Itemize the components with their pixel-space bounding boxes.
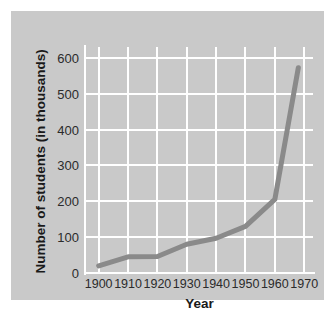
y-tick-label-300: 300 (57, 159, 79, 172)
x-tick-label-1940: 1940 (202, 278, 230, 291)
x-tick-label-1910: 1910 (114, 278, 142, 291)
x-tick-label-1960: 1960 (261, 278, 289, 291)
plot-area (84, 47, 313, 273)
x-axis-tick-labels: 19001910192019301940195019601970 (11, 278, 335, 296)
x-tick-label-1970: 1970 (290, 278, 318, 291)
x-tick-label-1950: 1950 (232, 278, 260, 291)
x-tick-label-1900: 1900 (85, 278, 113, 291)
y-tick-label-500: 500 (57, 88, 79, 101)
y-axis-title: Number of students (in thousands) (33, 60, 48, 274)
y-tick-label-200: 200 (57, 195, 79, 208)
y-tick-label-400: 400 (57, 124, 79, 137)
x-axis-title: Year (84, 296, 315, 311)
y-tick-label-600: 600 (57, 52, 79, 65)
chart-panel: 0100200300400500600 19001910192019301940… (11, 11, 324, 300)
x-tick-label-1930: 1930 (173, 278, 201, 291)
chart-figure: 0100200300400500600 19001910192019301940… (0, 0, 335, 311)
y-tick-label-100: 100 (57, 231, 79, 244)
line-series-number-of-students (84, 47, 313, 273)
x-tick-label-1920: 1920 (143, 278, 171, 291)
